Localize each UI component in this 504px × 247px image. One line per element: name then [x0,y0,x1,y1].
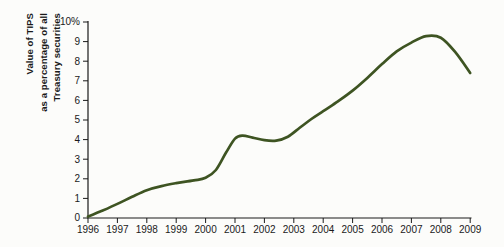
x-tick-label: 2004 [312,224,335,235]
x-tick-label: 2006 [371,224,394,235]
x-tick-label: 2002 [253,224,276,235]
y-tick-label: 5 [74,114,80,125]
y-tick-label: 10% [60,16,80,27]
x-tick-label: 2001 [224,224,247,235]
x-tick-label: 1998 [136,224,159,235]
y-tick-label: 4 [74,134,80,145]
x-tick-label: 2005 [341,224,364,235]
y-tick-label: 2 [74,173,80,184]
tips-series-line [88,36,470,217]
y-tick-label: 6 [74,95,80,106]
x-tick-label: 1996 [77,224,100,235]
x-tick-label: 2009 [459,224,482,235]
x-tick-label: 2008 [430,224,453,235]
x-tick-label: 2000 [194,224,217,235]
tips-percentage-figure: 012345678910%199619971998199920002001200… [0,0,504,247]
x-tick-label: 2003 [283,224,306,235]
y-tick-label: 0 [74,212,80,223]
y-tick-label: 9 [74,36,80,47]
y-tick-label: 7 [74,75,80,86]
tips-line-chart: 012345678910%199619971998199920002001200… [0,0,504,247]
y-tick-label: 8 [74,56,80,67]
y-tick-label: 3 [74,154,80,165]
x-tick-label: 1999 [165,224,188,235]
x-tick-label: 2007 [400,224,423,235]
x-tick-label: 1997 [106,224,129,235]
y-tick-label: 1 [74,193,80,204]
axes [88,21,472,218]
